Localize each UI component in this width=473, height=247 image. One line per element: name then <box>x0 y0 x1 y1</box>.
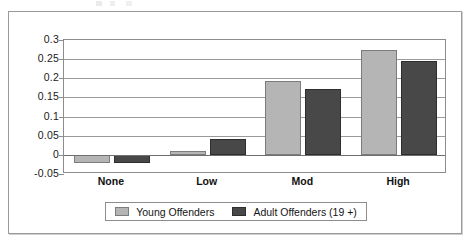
bar-low-adult <box>210 139 246 155</box>
y-axis-tick-label: -0.05 <box>34 167 59 179</box>
y-axis-tick-label: 0.05 <box>38 129 59 141</box>
y-tick-mark <box>59 59 64 60</box>
bar-chart: 0.30.250.20.150.10.050-0.05 NoneLowModHi… <box>9 12 463 235</box>
legend-label: Adult Offenders (19 +) <box>253 206 356 218</box>
adult-swatch <box>232 207 246 216</box>
bar-mod-adult <box>305 89 341 155</box>
y-axis-tick-label: 0.15 <box>38 90 59 102</box>
y-axis-tick-label: 0.1 <box>44 110 59 122</box>
bar-high-adult <box>401 61 437 155</box>
y-axis-labels: 0.30.250.20.150.10.050-0.05 <box>9 39 59 173</box>
y-axis-tick-label: 0 <box>53 148 59 160</box>
y-tick-mark <box>59 97 64 98</box>
chart-frame: 0.30.250.20.150.10.050-0.05 NoneLowModHi… <box>8 11 462 234</box>
legend-item-adult-offenders: Adult Offenders (19 +) <box>232 206 356 218</box>
chart-legend: Young OffendersAdult Offenders (19 +) <box>105 202 367 221</box>
y-tick-mark <box>59 117 64 118</box>
y-tick-mark <box>59 40 64 41</box>
zero-baseline <box>64 155 445 156</box>
bar-mod-young <box>265 81 301 155</box>
bar-none-adult <box>114 155 150 163</box>
legend-item-young-offenders: Young Offenders <box>115 206 214 218</box>
x-axis-label-none: None <box>98 175 124 187</box>
y-axis-tick-label: 0.3 <box>44 33 59 45</box>
y-axis-tick-label: 0.2 <box>44 71 59 83</box>
y-tick-mark <box>59 78 64 79</box>
scan-artifact-top <box>96 1 156 6</box>
y-tick-mark <box>59 136 64 137</box>
bar-none-young <box>74 155 110 163</box>
young-swatch <box>115 207 129 216</box>
bar-high-young <box>361 50 397 155</box>
x-axis-label-mod: Mod <box>292 175 314 187</box>
x-axis-label-high: High <box>386 175 409 187</box>
legend-label: Young Offenders <box>136 206 214 218</box>
y-axis-tick-label: 0.25 <box>38 52 59 64</box>
x-axis-labels: NoneLowModHigh <box>63 175 446 191</box>
x-axis-label-low: Low <box>196 175 217 187</box>
plot-area <box>63 39 446 173</box>
